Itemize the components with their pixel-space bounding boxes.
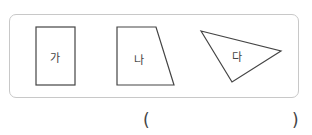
figure-label-da: 다	[232, 48, 242, 64]
figure-label-ga: 가	[50, 49, 60, 65]
figure-label-na: 나	[134, 51, 144, 67]
trapezoid-shape	[117, 27, 174, 85]
answer-close-paren: )	[292, 110, 299, 130]
answer-open-paren: (	[143, 110, 150, 130]
answer-blank[interactable]	[155, 112, 290, 132]
